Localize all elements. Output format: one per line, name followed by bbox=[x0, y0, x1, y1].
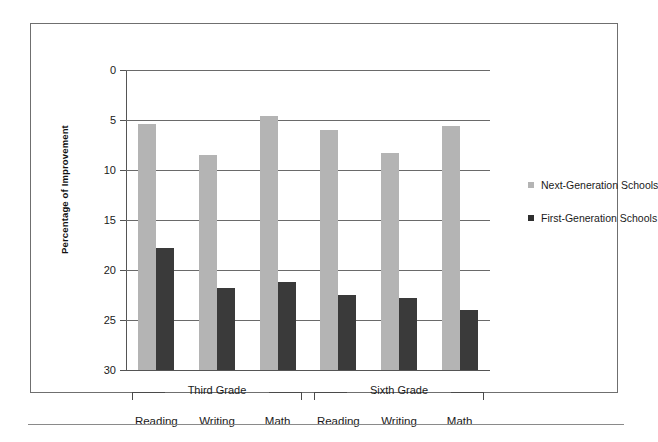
category-label: Math bbox=[265, 415, 291, 427]
group-bracket-rule bbox=[132, 392, 165, 393]
bar bbox=[138, 124, 156, 370]
bar bbox=[399, 298, 417, 370]
bar bbox=[199, 155, 217, 370]
tick-mark-10 bbox=[120, 270, 126, 271]
legend-swatch-icon bbox=[528, 182, 534, 188]
y-tick-label: 10 bbox=[104, 164, 116, 176]
bar bbox=[442, 126, 460, 370]
y-tick-label: 0 bbox=[110, 64, 116, 76]
plot-area: 302520151050 bbox=[126, 70, 490, 370]
category-label: Writing bbox=[199, 415, 235, 427]
y-tick-label: 20 bbox=[104, 264, 116, 276]
y-axis-title: Percentage of Improvement bbox=[59, 95, 70, 285]
bar bbox=[460, 310, 478, 370]
category-label: Reading bbox=[317, 415, 360, 427]
gridline-15 bbox=[126, 220, 490, 221]
group-bracket-rule bbox=[451, 392, 484, 393]
tick-mark-25 bbox=[120, 120, 126, 121]
legend-item: First-Generation Schools bbox=[528, 212, 658, 224]
bar bbox=[381, 153, 399, 370]
group-bracket-rule bbox=[269, 392, 302, 393]
category-label: Writing bbox=[381, 415, 417, 427]
bottom-rule bbox=[28, 424, 624, 425]
legend-item: Next-Generation Schools bbox=[528, 179, 658, 191]
tick-mark-5 bbox=[120, 320, 126, 321]
tick-mark-20 bbox=[120, 170, 126, 171]
chart-legend: Next-Generation SchoolsFirst-Generation … bbox=[528, 179, 658, 245]
legend-label: First-Generation Schools bbox=[541, 212, 657, 224]
tick-mark-15 bbox=[120, 220, 126, 221]
legend-label: Next-Generation Schools bbox=[541, 179, 658, 191]
gridline-30 bbox=[126, 70, 490, 71]
bar bbox=[217, 288, 235, 370]
tick-mark-30 bbox=[120, 70, 126, 71]
category-label: Math bbox=[447, 415, 473, 427]
category-label: Reading bbox=[135, 415, 178, 427]
group-label: Sixth Grade bbox=[370, 384, 428, 396]
gridline-20 bbox=[126, 170, 490, 171]
bar bbox=[338, 295, 356, 370]
figure-frame: Percentage of Improvement 302520151050 R… bbox=[30, 23, 618, 393]
gridline-25 bbox=[126, 120, 490, 121]
legend-swatch-icon bbox=[528, 215, 534, 221]
gridline-10 bbox=[126, 270, 490, 271]
bar bbox=[156, 248, 174, 370]
y-tick-label: 25 bbox=[104, 314, 116, 326]
x-axis-line bbox=[126, 370, 490, 371]
y-tick-label: 5 bbox=[110, 114, 116, 126]
tick-mark-0 bbox=[120, 370, 126, 371]
y-tick-label: 15 bbox=[104, 214, 116, 226]
group-bracket-rule bbox=[314, 392, 347, 393]
bar bbox=[260, 116, 278, 370]
gridline-5 bbox=[126, 320, 490, 321]
y-tick-label: 30 bbox=[104, 364, 116, 376]
bar bbox=[320, 130, 338, 370]
group-label: Third Grade bbox=[188, 384, 247, 396]
bar bbox=[278, 282, 296, 370]
